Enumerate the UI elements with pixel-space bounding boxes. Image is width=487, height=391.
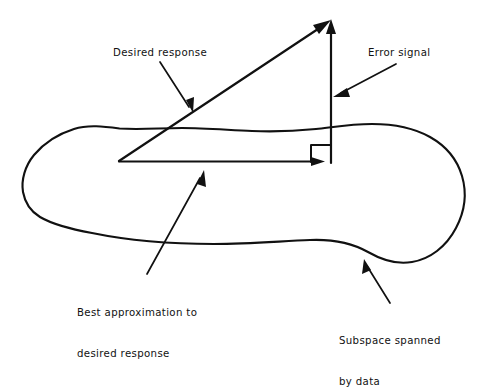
subspace-blob-outline <box>22 124 464 263</box>
label-subspace-line-2: by data <box>339 375 441 389</box>
label-error-signal: Error signal <box>368 46 430 60</box>
best-approximation-leader-arrowhead <box>197 170 206 187</box>
label-subspace-spanned-by-data: Subspace spanned by data <box>339 307 441 391</box>
desired-response-leader-line <box>160 62 189 107</box>
error-signal-leader-line <box>341 64 396 93</box>
label-best-approximation-line-2: desired response <box>77 347 197 361</box>
label-desired-response: Desired response <box>113 46 207 60</box>
best-approximation-leader-line <box>147 178 200 274</box>
best-approximation-arrowhead <box>311 157 325 166</box>
label-best-approximation-line-1: Best approximation to <box>77 306 197 320</box>
subspace-leader-line <box>367 266 390 303</box>
label-subspace-line-1: Subspace spanned <box>339 334 441 348</box>
label-best-approximation: Best approximation to desired response <box>77 279 197 387</box>
